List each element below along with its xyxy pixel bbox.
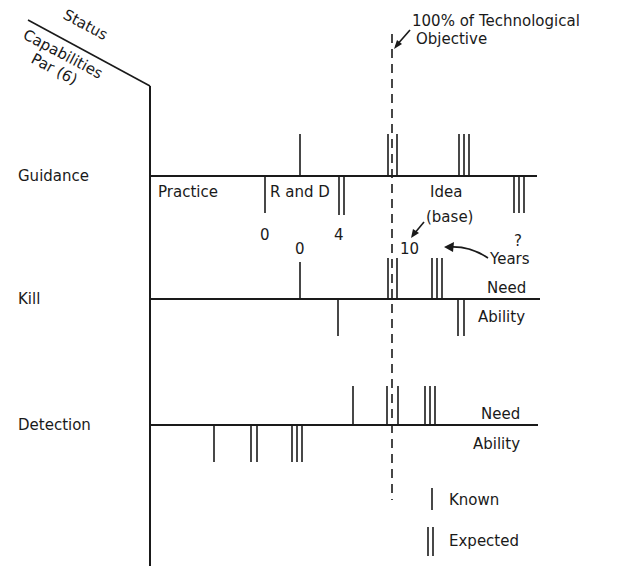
base-note: (base) (426, 208, 473, 226)
years-arrowhead-icon (444, 242, 454, 252)
corner-header: Status Capabilities Par (6) (20, 6, 150, 89)
capabilities-status-diagram: Status Capabilities Par (6) 100% of Tech… (0, 0, 637, 578)
detection-row: Need Ability (150, 386, 538, 462)
legend-expected-label: Expected (449, 532, 519, 550)
years-arrow-shaft (450, 247, 488, 258)
kill-triple-tick-up (432, 258, 442, 299)
year-mark-unknown: ? (514, 232, 522, 250)
objective-line1: 100% of Technological (412, 12, 580, 30)
kill-row: Need Ability (150, 258, 540, 336)
row-label-detection: Detection (18, 416, 91, 434)
kill-ability-label: Ability (478, 308, 525, 326)
guidance-expected-tick-down (339, 176, 344, 215)
year-mark-0: 0 (260, 226, 270, 244)
guidance-triple-tick-down (514, 176, 524, 213)
detection-need-label: Need (481, 405, 520, 423)
detection-expected-tick-down (251, 425, 257, 462)
row-label-guidance: Guidance (18, 167, 89, 185)
legend-known-label: Known (449, 491, 499, 509)
phase-practice: Practice (158, 183, 218, 201)
year-mark-10: 10 (400, 240, 419, 258)
objective-line2: Objective (416, 30, 487, 48)
status-label: Status (60, 6, 111, 44)
phase-r-and-d: R and D (270, 183, 330, 201)
detection-ability-label: Ability (473, 435, 520, 453)
detection-triple-tick-down (292, 425, 302, 462)
kill-zero-mark: 0 (295, 240, 305, 258)
kill-need-label: Need (487, 279, 526, 297)
objective-label: 100% of Technological Objective (394, 12, 580, 49)
year-mark-4: 4 (334, 226, 344, 244)
kill-expected-tick-down (458, 299, 464, 336)
guidance-triple-tick-up (459, 134, 469, 176)
phase-idea: Idea (430, 183, 462, 201)
legend-expected-icon (428, 527, 433, 556)
row-label-kill: Kill (18, 290, 40, 308)
detection-expected-tick-up (387, 386, 398, 425)
detection-triple-tick-up (425, 386, 435, 425)
legend: Known Expected (428, 488, 519, 556)
guidance-row: Practice R and D Idea (base) 0 4 10 ? 0 … (150, 134, 537, 268)
years-label: Years (489, 250, 530, 268)
